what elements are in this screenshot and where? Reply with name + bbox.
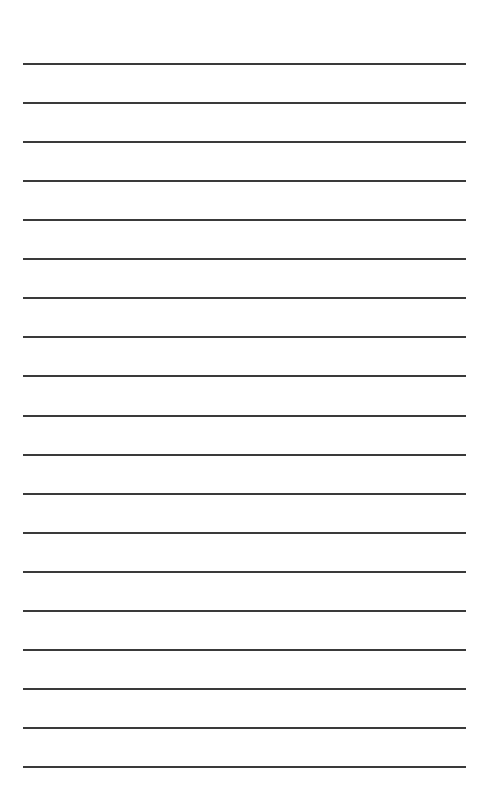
ruled-line (23, 180, 466, 182)
ruled-line (23, 375, 466, 377)
ruled-line (23, 454, 466, 456)
lined-paper-page (0, 0, 479, 803)
ruled-line (23, 532, 466, 534)
ruled-line (23, 336, 466, 338)
ruled-line (23, 688, 466, 690)
ruled-line (23, 649, 466, 651)
ruled-line (23, 610, 466, 612)
ruled-line (23, 493, 466, 495)
ruled-line (23, 63, 466, 65)
ruled-line (23, 415, 466, 417)
ruled-line (23, 727, 466, 729)
ruled-line (23, 258, 466, 260)
ruled-line (23, 102, 466, 104)
ruled-line (23, 219, 466, 221)
ruled-line (23, 297, 466, 299)
ruled-line (23, 766, 466, 768)
ruled-line (23, 141, 466, 143)
ruled-line (23, 571, 466, 573)
